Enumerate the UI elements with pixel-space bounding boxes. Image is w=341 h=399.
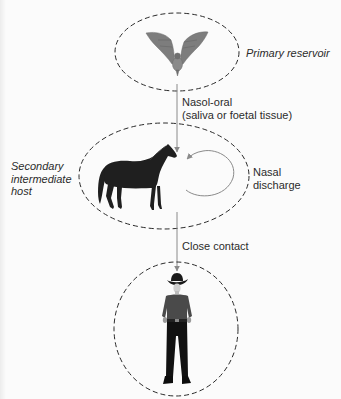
label-nasal-line-2: discharge <box>253 179 301 192</box>
label-host-line-2: intermediate <box>11 173 72 186</box>
reservoir-boundary <box>115 13 239 91</box>
label-nasol-oral-line-2: (saliva or foetal tissue) <box>182 109 292 122</box>
label-host-line-1: Secondary <box>11 160 72 173</box>
label-host-line-3: host <box>11 185 72 198</box>
transmission-diagram <box>0 0 341 399</box>
label-nasal-discharge: Nasal discharge <box>253 166 301 191</box>
label-nasol-oral-line-1: Nasol-oral <box>182 96 292 109</box>
horse-icon <box>98 144 177 210</box>
label-secondary-intermediate-host: Secondary intermediate host <box>11 160 72 198</box>
nasal-discharge-loop-arrow <box>186 151 234 196</box>
person-icon <box>162 273 192 384</box>
label-primary-reservoir: Primary reservoir <box>246 47 330 60</box>
bat-icon <box>146 32 208 76</box>
label-nasal-line-1: Nasal <box>253 166 301 179</box>
label-close-contact: Close contact <box>182 240 249 253</box>
label-nasol-oral: Nasol-oral (saliva or foetal tissue) <box>182 96 292 121</box>
